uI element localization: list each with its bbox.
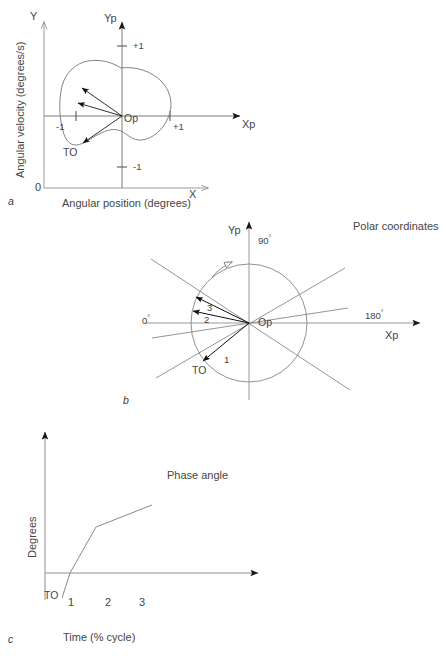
panel-a-tick-label-x-pos: +1 (173, 122, 184, 132)
panel-c-takeoff-label: TO (44, 590, 58, 601)
panel-c-phase-angle-curve (62, 505, 152, 598)
panel-b-angle-180-value: 180 (365, 310, 381, 321)
degree-symbol-icon: ° (269, 234, 272, 241)
panel-a-yp-axis-label: Yp (104, 13, 117, 24)
panel-c-y-axis-label: Degrees (26, 516, 38, 558)
panel-b-vector-2 (193, 311, 249, 323)
panel-b-vector-label-2: 2 (204, 315, 209, 325)
panel-b-xp-axis-label: Xp (385, 330, 398, 341)
panel-a-y-axis-label: Angular velocity (degrees/s) (14, 42, 26, 178)
panel-b-origin-label: Op (258, 317, 272, 328)
degree-symbol-icon: ° (381, 309, 384, 316)
panel-a-takeoff-label: TO (63, 147, 77, 158)
panel-a-x-axis-label: Angular position (degrees) (62, 198, 191, 209)
panel-c-letter: c (8, 634, 13, 645)
panel-a-vector-3 (82, 88, 122, 116)
panel-a-origin-label: Op (124, 113, 138, 124)
panel-b-title: Polar coordinates (353, 221, 439, 232)
panel-c-x-tick-label-1: 1 (68, 597, 74, 608)
figure-canvas (0, 0, 446, 658)
degree-symbol-icon: ° (147, 314, 150, 321)
panel-c-title: Phase angle (167, 470, 228, 481)
panel-c-x-tick-label-2: 2 (105, 597, 111, 608)
panel-b-takeoff-label: TO (192, 365, 206, 376)
panel-b-vector-label-3: 3 (207, 303, 212, 313)
panel-a-outer-y-axis-label: Y (30, 11, 37, 22)
panel-b-diameter-3 (151, 259, 350, 390)
panel-b-letter: b (123, 395, 129, 406)
panel-c-graphics (45, 432, 258, 600)
panel-a-letter: a (8, 196, 14, 207)
panel-c-x-axis-label: Time (% cycle) (63, 632, 135, 643)
panel-b-yp-axis-label: Yp (228, 225, 241, 236)
panel-a-vector-2 (78, 103, 122, 116)
panel-a-outer-origin-label: 0 (35, 182, 41, 193)
panel-b-angle-label-90: 90° (258, 236, 271, 246)
panel-a-tick-label-y-pos: +1 (133, 41, 144, 51)
panel-b-angle-label-180: 180° (365, 311, 384, 321)
panel-c-x-tick-label-3: 3 (139, 597, 145, 608)
panel-a-tick-label-x-neg: -1 (56, 122, 64, 132)
panel-b-angle-90-value: 90 (258, 235, 269, 246)
panel-a-tick-label-y-neg: -1 (133, 162, 141, 172)
panel-a-trajectory (60, 60, 171, 145)
figure-root: Angular velocity (degrees/s) Y X 0 Yp Xp… (0, 0, 446, 658)
panel-a-xp-axis-label: Xp (242, 119, 255, 130)
panel-b-angle-label-0: 0° (142, 316, 150, 326)
panel-b-vector-label-1: 1 (224, 355, 229, 365)
